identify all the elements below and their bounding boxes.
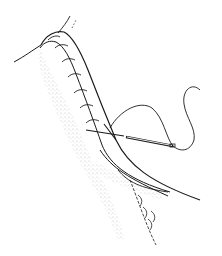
suture-illustration (0, 0, 222, 256)
needle-highlight (127, 137, 172, 146)
incision-line (14, 45, 41, 62)
skin-marks (138, 195, 155, 230)
tissue-shading (39, 48, 125, 240)
illustration-canvas (0, 0, 222, 256)
incision-line-top (58, 16, 70, 33)
suture-crossing (86, 130, 124, 136)
dotted-line-top (72, 20, 76, 28)
suture-thread (110, 87, 200, 150)
